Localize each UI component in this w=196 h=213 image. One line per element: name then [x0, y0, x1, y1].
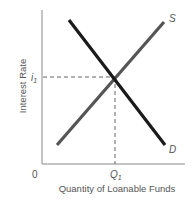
supply-label: S [169, 13, 176, 24]
y-axis-title: Interest Rate [17, 59, 28, 113]
origin-label: 0 [32, 169, 38, 180]
loanable-funds-chart: S D i1 Q1 0 Quantity of Loanable Funds I… [0, 0, 196, 213]
demand-label: D [169, 144, 176, 155]
x-axis-title: Quantity of Loanable Funds [59, 183, 176, 194]
i1-label: i1 [31, 72, 37, 84]
supply-curve [57, 22, 164, 145]
q1-label: Q1 [110, 169, 122, 181]
